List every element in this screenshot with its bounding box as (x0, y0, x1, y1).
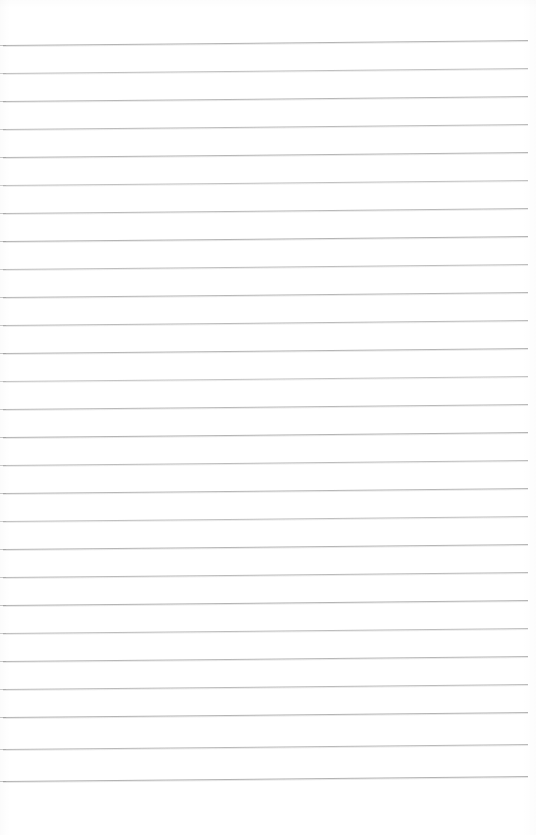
ruling-line (3, 320, 528, 326)
ruling-line (3, 684, 528, 690)
ruling-line (3, 628, 528, 634)
ruling-line (3, 516, 528, 522)
scanned-page (0, 0, 536, 835)
ruling-line (3, 292, 528, 298)
ruling-line (3, 68, 528, 74)
ruling-line (3, 180, 528, 186)
ruling-line (3, 348, 528, 354)
ruling-line (3, 124, 528, 130)
ruling-line (3, 96, 528, 102)
ruling-line (3, 432, 528, 438)
ruling-line (3, 544, 528, 550)
ruling-line (3, 40, 528, 46)
ruling-line (3, 404, 528, 410)
ruling-line (3, 776, 528, 782)
ruling-line (3, 376, 528, 382)
ruling-line (3, 488, 528, 494)
ruling-line (3, 208, 528, 214)
ruling-line (3, 460, 528, 466)
ruling-line (3, 712, 528, 718)
ruling-line (3, 572, 528, 578)
ruling-line (3, 152, 528, 158)
ruling-line (3, 656, 528, 662)
ruling-lines-layer (0, 0, 536, 835)
ruling-line (3, 236, 528, 242)
ruling-line (3, 264, 528, 270)
ruling-line (3, 744, 528, 750)
ruling-line (3, 600, 528, 606)
